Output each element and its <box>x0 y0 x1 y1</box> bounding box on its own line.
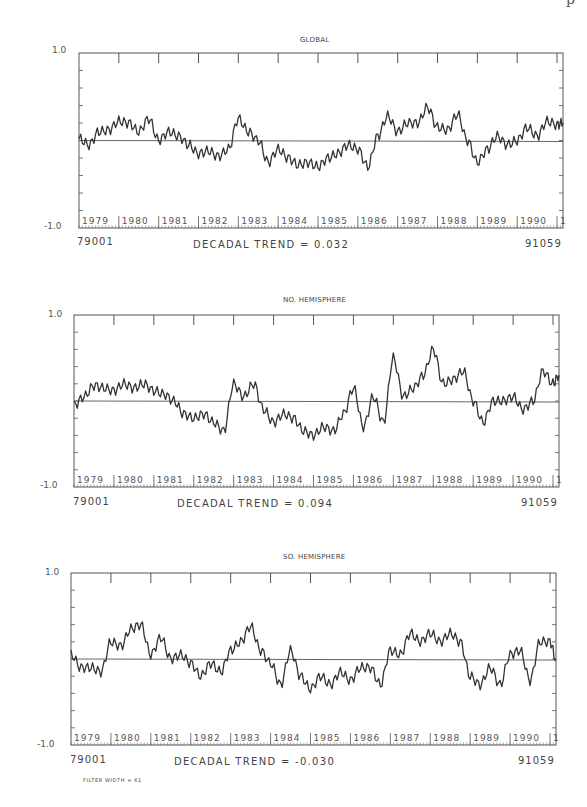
svg-text:1980: 1980 <box>122 216 149 226</box>
svg-text:1980: 1980 <box>114 733 141 743</box>
svg-text:1989: 1989 <box>473 733 500 743</box>
svg-text:1987: 1987 <box>401 216 428 226</box>
svg-text:1989: 1989 <box>476 475 503 485</box>
svg-text:1988: 1988 <box>436 475 463 485</box>
chart-plots: 1979198019811982198319841985198619871988… <box>0 0 587 807</box>
svg-text:1982: 1982 <box>197 475 224 485</box>
svg-text:1982: 1982 <box>194 733 221 743</box>
svg-text:1981: 1981 <box>162 216 189 226</box>
svg-text:1: 1 <box>556 475 563 485</box>
svg-text:1990: 1990 <box>513 733 540 743</box>
svg-text:1979: 1979 <box>82 216 109 226</box>
svg-text:1987: 1987 <box>393 733 420 743</box>
svg-text:1988: 1988 <box>433 733 460 743</box>
svg-text:1982: 1982 <box>202 216 229 226</box>
svg-text:1985: 1985 <box>321 216 348 226</box>
svg-text:1985: 1985 <box>314 733 341 743</box>
svg-text:1: 1 <box>553 733 560 743</box>
svg-text:1990: 1990 <box>520 216 547 226</box>
svg-text:1986: 1986 <box>356 475 383 485</box>
svg-text:1987: 1987 <box>396 475 423 485</box>
svg-text:1: 1 <box>560 216 567 226</box>
svg-text:1988: 1988 <box>441 216 468 226</box>
svg-text:1986: 1986 <box>361 216 388 226</box>
svg-text:1986: 1986 <box>353 733 380 743</box>
svg-text:1981: 1981 <box>157 475 184 485</box>
svg-text:1979: 1979 <box>74 733 101 743</box>
svg-text:1990: 1990 <box>516 475 543 485</box>
svg-text:1979: 1979 <box>77 475 104 485</box>
svg-text:1984: 1984 <box>277 475 304 485</box>
svg-text:1983: 1983 <box>234 733 261 743</box>
svg-text:1983: 1983 <box>237 475 264 485</box>
svg-text:1981: 1981 <box>154 733 181 743</box>
svg-text:1983: 1983 <box>241 216 268 226</box>
svg-text:1985: 1985 <box>317 475 344 485</box>
svg-text:1980: 1980 <box>117 475 144 485</box>
svg-text:1989: 1989 <box>480 216 507 226</box>
svg-text:1984: 1984 <box>281 216 308 226</box>
svg-text:1984: 1984 <box>274 733 301 743</box>
